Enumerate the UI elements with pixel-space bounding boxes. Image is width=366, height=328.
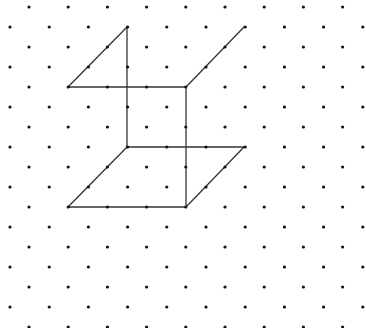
- grid-dot: [87, 145, 90, 148]
- grid-dot: [184, 245, 187, 248]
- grid-dot: [184, 45, 187, 48]
- grid-dot: [27, 285, 30, 288]
- grid-dot: [361, 265, 364, 268]
- grid-dot: [184, 5, 187, 8]
- grid-dot: [8, 145, 11, 148]
- grid-dot: [126, 185, 129, 188]
- grid-dot: [223, 85, 226, 88]
- grid-dot: [341, 85, 344, 88]
- grid-dot: [244, 225, 247, 228]
- grid-dot: [27, 5, 30, 8]
- grid-dot: [184, 205, 187, 208]
- grid-dot: [302, 165, 305, 168]
- grid-dot: [341, 5, 344, 8]
- grid-dot: [204, 185, 207, 188]
- grid-dot: [87, 105, 90, 108]
- grid-dot: [48, 105, 51, 108]
- grid-dot: [106, 285, 109, 288]
- grid-dot: [361, 65, 364, 68]
- grid-dot: [126, 225, 129, 228]
- grid-dot: [27, 245, 30, 248]
- grid-dot: [361, 145, 364, 148]
- grid-dot: [67, 285, 70, 288]
- grid-dot: [8, 305, 11, 308]
- grid-dot: [244, 25, 247, 28]
- grid-dot: [184, 125, 187, 128]
- grid-dot: [361, 305, 364, 308]
- grid-dot: [145, 5, 148, 8]
- grid-dot: [341, 245, 344, 248]
- grid-dot: [87, 25, 90, 28]
- grid-dot: [48, 145, 51, 148]
- grid-dot: [27, 125, 30, 128]
- grid-dot: [283, 105, 286, 108]
- grid-dot: [283, 185, 286, 188]
- grid-dot: [263, 45, 266, 48]
- grid-dot: [283, 305, 286, 308]
- grid-dot: [283, 265, 286, 268]
- grid-dot: [8, 185, 11, 188]
- grid-dot: [302, 85, 305, 88]
- grid-dot: [302, 5, 305, 8]
- grid-dot: [302, 245, 305, 248]
- grid-dot: [165, 185, 168, 188]
- grid-dot: [244, 185, 247, 188]
- grid-dot: [126, 25, 129, 28]
- grid-dot: [8, 25, 11, 28]
- grid-dot: [283, 25, 286, 28]
- grid-dot: [341, 165, 344, 168]
- grid-dot: [223, 165, 226, 168]
- grid-dot: [27, 205, 30, 208]
- grid-dot: [126, 305, 129, 308]
- line-segment: [186, 27, 244, 87]
- grid-dot: [145, 85, 148, 88]
- grid-dot: [341, 285, 344, 288]
- grid-dot: [48, 185, 51, 188]
- grid-dot: [126, 265, 129, 268]
- grid-dot: [341, 205, 344, 208]
- grid-dot: [48, 305, 51, 308]
- grid-dot: [106, 165, 109, 168]
- dot-grid: [8, 5, 364, 328]
- grid-dot: [67, 165, 70, 168]
- lower-parallelogram: [68, 147, 244, 207]
- grid-dot: [204, 305, 207, 308]
- grid-dot: [263, 5, 266, 8]
- grid-dot: [165, 25, 168, 28]
- grid-dot: [223, 5, 226, 8]
- grid-dot: [87, 65, 90, 68]
- grid-dot: [204, 65, 207, 68]
- grid-dot: [244, 305, 247, 308]
- grid-dot: [263, 245, 266, 248]
- grid-dot: [204, 265, 207, 268]
- grid-dot: [244, 105, 247, 108]
- grid-dot: [165, 225, 168, 228]
- grid-dot: [87, 265, 90, 268]
- grid-dot: [263, 165, 266, 168]
- grid-dot: [283, 65, 286, 68]
- grid-dot: [244, 265, 247, 268]
- grid-dot: [204, 105, 207, 108]
- grid-dot: [87, 185, 90, 188]
- grid-dot: [106, 5, 109, 8]
- grid-dot: [126, 145, 129, 148]
- line-segment: [68, 147, 127, 207]
- grid-dot: [244, 65, 247, 68]
- grid-dot: [361, 185, 364, 188]
- grid-dot: [8, 265, 11, 268]
- grid-dot: [184, 85, 187, 88]
- grid-dot: [165, 105, 168, 108]
- grid-dot: [106, 45, 109, 48]
- grid-dot: [361, 225, 364, 228]
- grid-dot: [322, 265, 325, 268]
- grid-dot: [106, 245, 109, 248]
- grid-dot: [223, 245, 226, 248]
- grid-dot: [302, 45, 305, 48]
- grid-dot: [322, 305, 325, 308]
- grid-dot: [223, 285, 226, 288]
- grid-dot: [204, 145, 207, 148]
- grid-dot: [8, 225, 11, 228]
- grid-dot: [223, 125, 226, 128]
- grid-dot: [204, 225, 207, 228]
- grid-dot: [67, 245, 70, 248]
